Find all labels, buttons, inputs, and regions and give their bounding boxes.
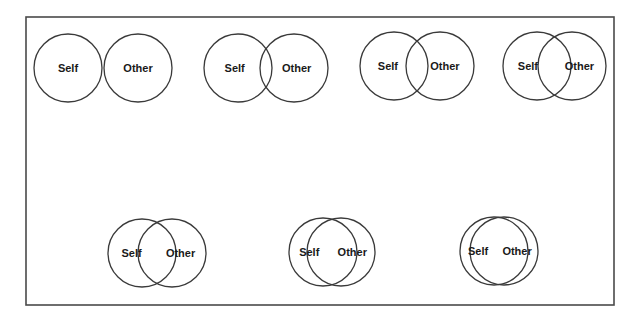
self-label: Self [468,245,489,257]
other-label: Other [282,62,312,74]
other-label: Other [166,247,196,259]
self-label: Self [58,62,79,74]
circle-pair-2: SelfOther [204,34,328,102]
circle-pairs: SelfOtherSelfOtherSelfOtherSelfOtherSelf… [34,32,606,287]
circle-pair-3: SelfOther [360,32,474,100]
circle-pair-5: SelfOther [108,219,206,287]
self-label: Self [378,60,399,72]
venn-diagram-canvas: SelfOtherSelfOtherSelfOtherSelfOtherSelf… [0,0,642,319]
other-label: Other [338,246,368,258]
other-label: Other [565,60,595,72]
self-label: Self [518,60,539,72]
ios-scale-figure: SelfOtherSelfOtherSelfOtherSelfOtherSelf… [0,0,642,319]
self-label: Self [225,62,246,74]
circle-pair-4: SelfOther [503,32,606,100]
other-label: Other [430,60,460,72]
circle-pair-6: SelfOther [289,218,375,286]
self-label: Self [121,247,142,259]
self-label: Self [299,246,320,258]
other-label: Other [502,245,532,257]
circle-pair-7: SelfOther [460,217,538,285]
circle-pair-1: SelfOther [34,34,172,102]
other-label: Other [123,62,153,74]
